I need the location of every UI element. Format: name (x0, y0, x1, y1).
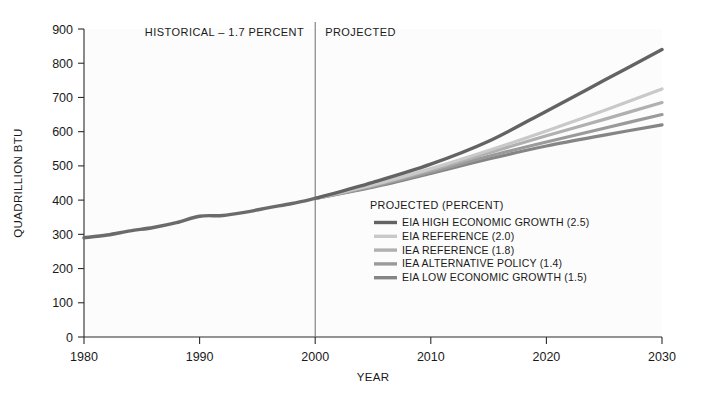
y-axis-title: QUADRILLION BTU (12, 128, 24, 237)
x-axis-title: YEAR (357, 371, 390, 383)
x-tick-label: 2030 (648, 350, 676, 364)
legend-title: PROJECTED (PERCENT) (370, 199, 504, 211)
legend-item-label: EIA REFERENCE (2.0) (402, 230, 514, 242)
x-tick-label: 2020 (532, 350, 560, 364)
x-axis-ticks: 198019902000201020202030 (70, 337, 676, 364)
x-tick-label: 2000 (301, 350, 329, 364)
y-tick-label: 400 (52, 194, 73, 208)
y-tick-label: 500 (52, 159, 73, 173)
y-tick-label: 900 (52, 23, 73, 37)
x-tick-label: 2010 (417, 350, 445, 364)
projected-band-label: PROJECTED (325, 26, 396, 38)
y-tick-label: 100 (52, 296, 73, 310)
y-tick-label: 600 (52, 125, 73, 139)
x-tick-label: 1980 (70, 350, 98, 364)
energy-outlook-chart: 0100200300400500600700800900 19801990200… (0, 0, 702, 409)
y-tick-label: 700 (52, 91, 73, 105)
y-tick-label: 0 (66, 331, 73, 345)
y-tick-label: 800 (52, 57, 73, 71)
legend-item-label: EIA HIGH ECONOMIC GROWTH (2.5) (402, 216, 589, 228)
y-tick-label: 300 (52, 228, 73, 242)
legend-item-label: IEA ALTERNATIVE POLICY (1.4) (402, 257, 562, 269)
legend-item-label: EIA LOW ECONOMIC GROWTH (1.5) (402, 271, 587, 283)
legend-item-label: IEA REFERENCE (1.8) (402, 244, 514, 256)
x-tick-label: 1990 (186, 350, 214, 364)
y-tick-label: 200 (52, 262, 73, 276)
chart-canvas: 0100200300400500600700800900 19801990200… (0, 0, 702, 409)
y-axis-ticks: 0100200300400500600700800900 (52, 23, 84, 345)
historical-band-label: HISTORICAL – 1.7 PERCENT (145, 26, 304, 38)
